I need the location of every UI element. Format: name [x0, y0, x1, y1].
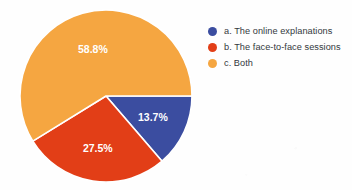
- legend-item-label: c. Both: [224, 58, 253, 69]
- legend-swatch-icon: [208, 27, 217, 36]
- legend-item-label: a. The online explanations: [224, 26, 332, 37]
- legend-item-label: b. The face-to-face sessions: [224, 42, 341, 53]
- pie-chart-figure: 13.7%27.5%58.8% a. The online explanatio…: [0, 0, 352, 190]
- legend-item-a[interactable]: a. The online explanations: [208, 25, 341, 38]
- legend-swatch-icon: [208, 43, 217, 52]
- pie-slice-value-label-c: 58.8%: [78, 43, 108, 55]
- legend-item-b[interactable]: b. The face-to-face sessions: [208, 41, 341, 54]
- legend-item-c[interactable]: c. Both: [208, 57, 341, 70]
- chart-legend: a. The online explanations b. The face-t…: [208, 25, 341, 70]
- pie-slice-value-label-a: 13.7%: [138, 111, 168, 123]
- pie-slice-value-label-b: 27.5%: [83, 142, 113, 154]
- pie-slices-group: [20, 10, 192, 182]
- legend-swatch-icon: [208, 59, 217, 68]
